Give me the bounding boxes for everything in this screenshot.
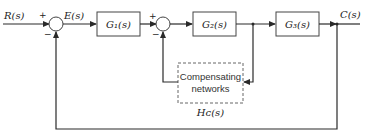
error-label: E(s): [63, 10, 84, 21]
block-g1-label: G₁(s): [106, 19, 131, 30]
output-label: C(s): [340, 9, 361, 20]
inner-feedback-to-compensator: [244, 24, 253, 82]
compensator-line-1: Compensating: [180, 71, 241, 82]
junction-2-minus: −: [152, 29, 160, 39]
junction-1-minus: −: [44, 29, 52, 39]
input-label: R(s): [3, 10, 25, 21]
block-diagram: R(s) + − E(s) G₁(s) + − G₂(s) G₃(s) C(s)…: [0, 0, 375, 134]
compensator-line-2: networks: [191, 83, 229, 94]
junction-1-plus: +: [39, 10, 47, 20]
inner-feedback-to-junction-2: [163, 32, 178, 82]
compensator-label: Hᴄ(s): [196, 107, 224, 118]
block-g3-label: G₃(s): [285, 19, 310, 30]
junction-2-plus: +: [149, 11, 157, 21]
block-g2-label: G₂(s): [202, 19, 227, 30]
